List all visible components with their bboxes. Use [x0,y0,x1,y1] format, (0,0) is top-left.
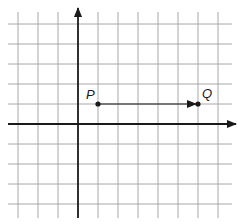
point-p-label: P [86,87,95,102]
coordinate-grid-diagram: P Q [0,0,242,224]
grid-lines [8,12,232,218]
grid-svg: P Q [0,0,242,224]
point-q-label: Q [202,86,212,101]
point-q [195,101,200,106]
point-p [95,101,100,106]
